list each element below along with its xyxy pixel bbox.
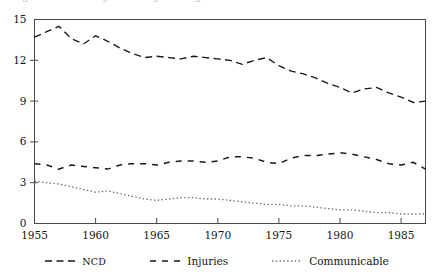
- x-tick-label: 1970: [198, 230, 238, 241]
- legend-swatch-communicable-icon: [272, 256, 302, 266]
- y-tick-label: 6: [3, 136, 27, 147]
- y-tick-label: 0: [3, 218, 27, 229]
- legend-swatch-injuries-icon: [150, 256, 180, 266]
- series-line-communicable: [35, 181, 426, 214]
- series-line-ncd: [35, 26, 426, 102]
- y-tick-label: 9: [3, 96, 27, 107]
- series-line-injuries: [35, 153, 426, 169]
- x-tick-label: 1975: [259, 230, 299, 241]
- y-tick-label: 12: [3, 55, 27, 66]
- x-tick-label: 1955: [15, 230, 55, 241]
- y-tick-label: 3: [3, 177, 27, 188]
- legend-label: NCD: [82, 256, 106, 267]
- x-tick-label: 1980: [320, 230, 360, 241]
- x-tick-label: 1965: [137, 230, 177, 241]
- x-tick-label: 1985: [381, 230, 421, 241]
- legend-entry-ncd: NCD: [45, 256, 106, 267]
- chart-figure: Figure 1. Mortality trends by cause grou…: [0, 0, 434, 274]
- legend-label: Injuries: [187, 255, 228, 267]
- y-tick-label: 15: [3, 14, 27, 25]
- plot-frame: [35, 20, 426, 224]
- legend-label: Communicable: [309, 255, 389, 267]
- legend-entry-injuries: Injuries: [150, 255, 228, 267]
- legend-entry-communicable: Communicable: [272, 255, 389, 267]
- x-tick-label: 1960: [76, 230, 116, 241]
- chart-legend: NCDInjuriesCommunicable: [0, 250, 434, 272]
- legend-swatch-ncd-icon: [45, 256, 75, 266]
